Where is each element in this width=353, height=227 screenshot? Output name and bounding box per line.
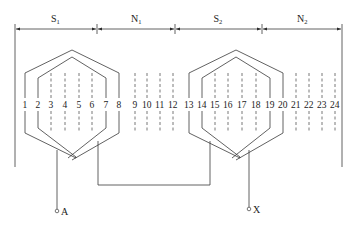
slot-number-1: 1: [23, 100, 28, 110]
terminal-x-label: X: [253, 204, 261, 215]
slot-number-3: 3: [49, 100, 54, 110]
slot-number-13: 13: [184, 100, 194, 110]
slot-number-11: 11: [155, 100, 164, 110]
inner-coil-upper: [202, 57, 270, 98]
slot-number-12: 12: [168, 100, 178, 110]
pole-label-1: S1: [51, 13, 60, 25]
slot-number-22: 22: [304, 100, 314, 110]
slot-number-19: 19: [265, 100, 275, 110]
slot-number-18: 18: [251, 100, 261, 110]
slot-number-6: 6: [90, 100, 95, 110]
slot-number-20: 20: [278, 100, 288, 110]
slot-number-17: 17: [237, 100, 247, 110]
slot-number-15: 15: [210, 100, 220, 110]
slot-number-8: 8: [117, 100, 122, 110]
slot-number-10: 10: [142, 100, 152, 110]
slot-number-23: 23: [317, 100, 327, 110]
inner-coil-upper: [38, 57, 106, 98]
inter-coil-connector: [98, 141, 210, 185]
slot-number-5: 5: [77, 100, 82, 110]
outer-coil-lower-right: [236, 111, 283, 160]
slot-number-24: 24: [330, 100, 340, 110]
slot-number-2: 2: [36, 100, 41, 110]
pole-label-4: N2: [297, 13, 307, 25]
terminal-x-circle-icon: [247, 207, 251, 211]
slot-number-4: 4: [63, 100, 68, 110]
terminal-a-label: A: [61, 206, 69, 217]
pole-label-3: S2: [214, 13, 223, 25]
winding-diagram: S1N1S2N2 1234567891011121314151617181920…: [0, 0, 353, 227]
slot-number-16: 16: [223, 100, 233, 110]
inner-coil-lower-left: [202, 111, 240, 157]
slot-number-7: 7: [104, 100, 109, 110]
pole-label-2: N1: [131, 13, 141, 25]
slot-number-21: 21: [291, 100, 301, 110]
pole-dimension-arrows: S1N1S2N2: [16, 13, 341, 34]
slot-lines: 123456789101112131415161718192021222324: [23, 73, 340, 132]
terminal-a-circle-icon: [55, 209, 59, 213]
winding-diagram-canvas: S1N1S2N2 1234567891011121314151617181920…: [0, 0, 353, 227]
slot-number-9: 9: [133, 100, 138, 110]
slot-number-14: 14: [197, 100, 207, 110]
